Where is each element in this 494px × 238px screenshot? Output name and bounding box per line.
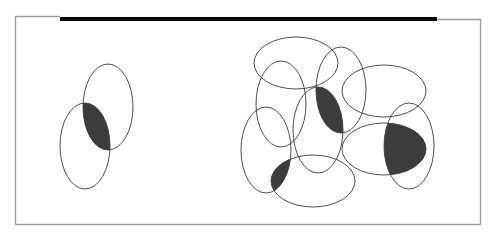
ellipse-R3 bbox=[241, 107, 291, 193]
ellipse-R7 bbox=[342, 65, 426, 117]
top-black-bar bbox=[60, 17, 437, 21]
shaded-overlaps bbox=[60, 87, 426, 207]
ellipse-overlap-diagram bbox=[0, 0, 494, 238]
ellipse-R1 bbox=[254, 37, 338, 89]
